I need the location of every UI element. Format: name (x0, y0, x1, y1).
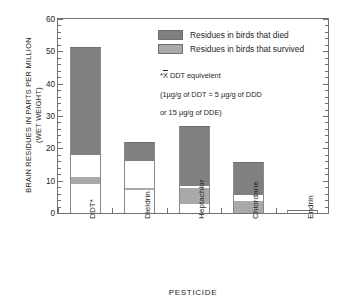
y-axis-tick-right (325, 155, 328, 156)
y-axis-tick-right (323, 213, 328, 214)
bar-segment-survived (124, 188, 155, 191)
y-axis-tick (58, 58, 61, 59)
y-axis-tick (58, 38, 61, 39)
footnote-line-3: or 15 µg/g of DDE) (160, 108, 262, 117)
y-axis-tick (58, 187, 61, 188)
y-axis-tick (58, 84, 63, 85)
y-axis-tick-right (323, 84, 328, 85)
y-axis-tick-right (325, 174, 328, 175)
y-axis-tick (58, 174, 61, 175)
legend-item-died: Residues in birds that died (158, 28, 333, 41)
x-axis-label-heptachlor: Heptachlor (197, 179, 206, 219)
x-axis-tick (58, 208, 59, 213)
y-axis-tick-label: 40 (46, 79, 55, 88)
y-axis-tick (58, 213, 63, 214)
y-axis-tick (58, 135, 61, 136)
y-axis-tick (58, 25, 61, 26)
y-axis-tick-right (325, 77, 328, 78)
legend-swatch-survived (158, 44, 183, 54)
y-axis-tick (58, 194, 61, 195)
chart-figure: BRAIN RESIDUES IN PARTS PER MILLION (WET… (0, 0, 342, 308)
x-axis-tick (276, 208, 277, 213)
chart-footnote: *X DDT equivelent (1µg/g of DDT = 5 µg/g… (160, 62, 262, 126)
y-axis-tick-right (325, 71, 328, 72)
y-axis-title: BRAIN RESIDUES IN PARTS PER MILLION (WET… (24, 8, 43, 222)
y-axis-tick (58, 116, 63, 117)
y-axis-tick (58, 200, 61, 201)
chart-legend: Residues in birds that died Residues in … (158, 28, 333, 56)
y-axis-tick (58, 71, 61, 72)
y-axis-tick (58, 45, 61, 46)
y-axis-tick (58, 161, 61, 162)
y-axis-tick-right (325, 122, 328, 123)
y-axis-tick (58, 142, 61, 143)
y-axis-tick-right (323, 116, 328, 117)
y-axis-tick (58, 181, 63, 182)
y-axis-tick-label: 30 (46, 112, 55, 121)
x-axis-title: PESTICIDE (57, 288, 329, 297)
legend-label-survived: Residues in birds that survived (190, 44, 304, 54)
y-axis-tick (58, 129, 61, 130)
y-axis-tick (58, 122, 61, 123)
y-axis-tick-label: 60 (46, 15, 55, 24)
y-axis-tick-right (325, 64, 328, 65)
y-axis-tick (58, 19, 63, 20)
y-axis-tick (58, 64, 61, 65)
bar-segment-died (124, 142, 155, 161)
x-axis-label-endrin: Endrin (306, 195, 315, 219)
bar-segment-unshaded-range (124, 161, 155, 188)
y-axis-tick-right (323, 181, 328, 182)
x-axis-tick (112, 208, 113, 213)
footnote-line-1: *X DDT equivelent (160, 71, 262, 80)
y-axis-tick (58, 32, 61, 33)
bar-segment-died (70, 47, 101, 154)
legend-label-died: Residues in birds that died (190, 30, 289, 40)
x-axis-tick (221, 208, 222, 213)
y-axis-tick-right (325, 187, 328, 188)
bar-segment-survived (70, 177, 101, 183)
legend-swatch-died (158, 30, 183, 40)
y-axis-tick-right (325, 135, 328, 136)
y-axis-tick-right (325, 110, 328, 111)
bar-segment-died (179, 126, 210, 186)
y-axis-tick (58, 110, 61, 111)
y-axis-tick (58, 155, 61, 156)
footnote-line-2: (1µg/g of DDT = 5 µg/g of DDD (160, 90, 262, 99)
y-axis-tick-right (325, 194, 328, 195)
y-axis-tick-label: 20 (46, 144, 55, 153)
bar-segment-unshaded-range (70, 155, 101, 178)
x-axis-tick (167, 208, 168, 213)
y-axis-tick-label: 50 (46, 47, 55, 56)
x-axis-label-dieldrin: Dieldrin (143, 191, 152, 219)
y-axis-tick-right (325, 90, 328, 91)
y-axis-tick-right (325, 25, 328, 26)
y-axis-tick-right (323, 19, 328, 20)
y-axis-tick-right (325, 103, 328, 104)
y-axis-tick-right (325, 129, 328, 130)
y-axis-tick-right (325, 200, 328, 201)
y-axis-tick (58, 51, 63, 52)
y-axis-tick-right (323, 148, 328, 149)
legend-item-survived: Residues in birds that survived (158, 42, 333, 55)
y-axis-tick-label: 10 (46, 176, 55, 185)
bar-ddt[interactable] (70, 47, 101, 213)
y-axis-tick (58, 148, 63, 149)
y-axis-tick (58, 168, 61, 169)
y-axis-tick-label: 0 (50, 209, 55, 218)
x-axis-label-ddt: DDT* (88, 199, 97, 219)
y-axis-tick (58, 77, 61, 78)
y-axis-tick (58, 103, 61, 104)
y-axis-title-container: BRAIN RESIDUES IN PARTS PER MILLION (WET… (0, 0, 30, 225)
y-axis-tick (58, 97, 61, 98)
y-axis-tick-right (325, 142, 328, 143)
x-axis-label-chlordane: Chlordane (251, 181, 260, 219)
y-axis-tick-right (325, 58, 328, 59)
y-axis-tick-right (325, 168, 328, 169)
y-axis-tick-right (325, 97, 328, 98)
x-axis-tick (328, 208, 329, 213)
y-axis-tick (58, 90, 61, 91)
y-axis-tick-right (325, 161, 328, 162)
footnote-line-1-rest: DDT equivelent (168, 71, 221, 80)
